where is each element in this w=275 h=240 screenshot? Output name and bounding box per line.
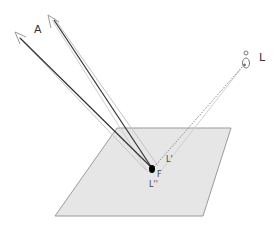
label-a: A [34, 24, 42, 35]
label-l-prime: L' [166, 156, 173, 164]
light-ray-left [19, 37, 146, 170]
surface-plane [55, 128, 231, 216]
label-f: F [157, 171, 162, 179]
light-bulb-icon [243, 51, 250, 68]
label-l: L [259, 52, 265, 63]
label-l-double-prime: L'' [149, 181, 158, 189]
eye-ray-right [54, 20, 152, 168]
point-f-dot [149, 165, 155, 173]
eye-ray-left [20, 38, 152, 168]
